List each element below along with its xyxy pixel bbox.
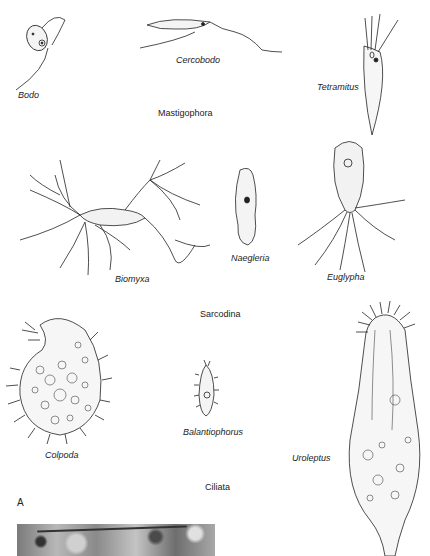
tetramitus-drawing bbox=[364, 14, 398, 135]
euglypha-drawing bbox=[298, 142, 405, 273]
group-label-ciliata: Ciliata bbox=[205, 482, 230, 492]
figure-drawings bbox=[0, 0, 430, 556]
micrograph-photo bbox=[17, 524, 215, 556]
bodo-drawing bbox=[16, 17, 65, 90]
group-label-sarcodina: Sarcodina bbox=[200, 309, 241, 319]
label-cercobodo: Cercobodo bbox=[176, 55, 220, 65]
label-colpoda: Colpoda bbox=[45, 450, 79, 460]
label-uroleptus: Uroleptus bbox=[292, 453, 331, 463]
label-euglypha: Euglypha bbox=[327, 272, 365, 282]
biomyxa-drawing bbox=[20, 160, 210, 275]
label-biomyxa: Biomyxa bbox=[115, 274, 150, 284]
label-tetramitus: Tetramitus bbox=[317, 82, 359, 92]
label-balantiophorus: Balantiophorus bbox=[183, 427, 243, 437]
colpoda-drawing bbox=[6, 319, 112, 444]
label-naegleria: Naegleria bbox=[231, 253, 270, 263]
naegleria-drawing bbox=[235, 168, 256, 245]
label-bodo: Bodo bbox=[18, 90, 39, 100]
balantiophorus-drawing bbox=[194, 360, 219, 416]
group-label-mastigophora: Mastigophora bbox=[158, 108, 213, 118]
cercobodo-drawing bbox=[140, 20, 282, 52]
uroleptus-drawing bbox=[349, 301, 420, 556]
panel-label: A bbox=[17, 497, 24, 508]
